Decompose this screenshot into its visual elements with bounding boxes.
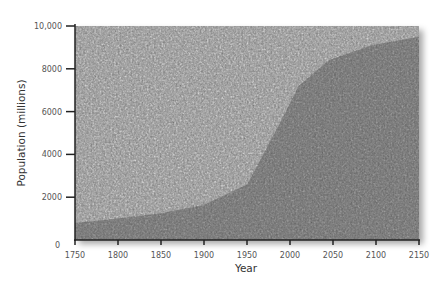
x-tick-label: 2050 (323, 251, 343, 260)
x-tick-label: 2000 (280, 251, 300, 260)
x-tick-label: 2150 (409, 251, 429, 260)
y-tick-label: 8000 (42, 65, 62, 74)
y-tick-label: 6000 (42, 108, 62, 117)
x-tick-label: 1950 (237, 251, 257, 260)
y-ticks: 0200040006000800010,000 (34, 22, 75, 250)
x-tick-label: 1850 (151, 251, 171, 260)
y-tick-label: 2000 (42, 193, 62, 202)
x-tick-label: 2100 (366, 251, 386, 260)
x-ticks: 175018001850190019502000205021002150 (65, 240, 429, 260)
population-chart: 0200040006000800010,000 1750180018501900… (0, 0, 443, 293)
x-tick-label: 1750 (65, 251, 85, 260)
y-tick-label: 4000 (42, 150, 62, 159)
x-tick-label: 1900 (194, 251, 214, 260)
y-tick-label: 0 (55, 241, 60, 250)
y-tick-label: 10,000 (34, 22, 62, 31)
x-tick-label: 1800 (108, 251, 128, 260)
y-axis-label: Population (millions) (15, 79, 27, 186)
x-axis-label: Year (234, 262, 258, 274)
